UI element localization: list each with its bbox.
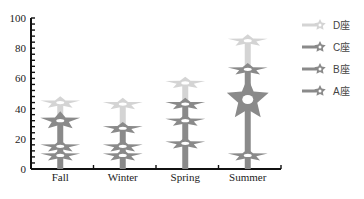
legend-item: C座 (302, 41, 350, 53)
legend-item: D座 (302, 19, 350, 31)
x-category-label: Summer (229, 171, 267, 183)
plot-area (40, 34, 268, 169)
x-category-label: Fall (52, 171, 69, 183)
y-tick-label: 40 (15, 103, 27, 115)
legend-item: A座 (302, 85, 350, 97)
x-axis: FallWinterSpringSummer (31, 165, 281, 183)
y-tick-label: 80 (15, 42, 27, 54)
y-tick-label: 100 (10, 12, 27, 24)
legend-label: D座 (333, 19, 350, 31)
x-category-label: Spring (171, 171, 201, 183)
x-category-label: Winter (108, 171, 138, 183)
y-tick-label: 60 (15, 72, 27, 84)
legend-label: B座 (333, 63, 350, 75)
legend-item: B座 (302, 63, 350, 75)
legend-label: A座 (333, 85, 350, 97)
y-axis: 020406080100 (10, 12, 36, 175)
star-column-chart: 020406080100 FallWinterSpringSummer D座C座… (0, 0, 364, 199)
y-tick-label: 20 (15, 133, 27, 145)
legend: D座C座B座A座 (302, 19, 350, 97)
y-tick-label: 0 (21, 163, 27, 175)
legend-label: C座 (333, 41, 350, 53)
